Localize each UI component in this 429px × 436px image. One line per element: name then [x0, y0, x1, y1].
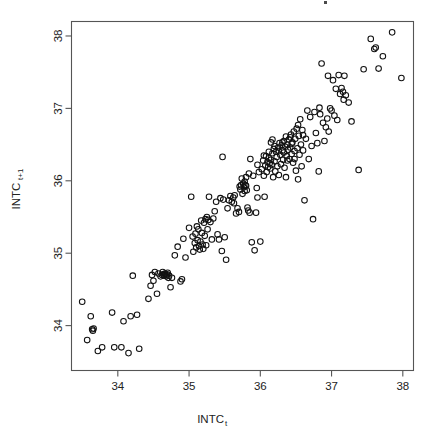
data-point: [220, 154, 226, 160]
data-point: [356, 167, 362, 173]
data-point: [324, 116, 330, 122]
data-point: [297, 116, 303, 122]
data-point: [130, 273, 136, 279]
data-point: [349, 119, 355, 125]
data-point: [146, 296, 152, 302]
data-point: [186, 225, 192, 231]
data-point: [322, 138, 328, 144]
data-point: [342, 73, 348, 79]
y-axis-ticks: [66, 36, 72, 326]
data-point: [313, 130, 319, 136]
data-point: [88, 313, 94, 319]
x-tick-label: 36: [254, 380, 267, 392]
data-point: [333, 86, 339, 92]
scatter-plot-figure: 3435363738 3435363738 INTC t INTC t+1: [0, 0, 429, 436]
data-point: [276, 172, 282, 178]
data-point: [389, 30, 395, 36]
y-axis-title-base: INTC: [10, 183, 22, 210]
data-point: [339, 85, 345, 91]
data-point: [235, 206, 241, 212]
data-point: [283, 174, 289, 180]
data-point: [302, 198, 308, 204]
data-point: [126, 350, 132, 356]
data-point: [293, 168, 299, 174]
data-point: [253, 210, 259, 216]
data-point: [372, 46, 378, 52]
data-point: [119, 345, 125, 351]
y-tick-label: 35: [52, 247, 64, 260]
data-point: [317, 105, 323, 111]
data-point: [258, 239, 264, 245]
data-point: [223, 257, 229, 263]
data-point: [151, 278, 157, 284]
data-point: [305, 108, 311, 114]
plot-canvas: 3435363738 3435363738 INTC t INTC t+1: [0, 0, 429, 436]
y-axis-title: INTC t+1: [10, 168, 25, 209]
data-point: [168, 284, 174, 290]
data-point: [175, 244, 181, 250]
data-point: [255, 162, 261, 168]
y-tick-label: 34: [52, 319, 64, 332]
y-axis-tick-labels: 3435363738: [52, 30, 64, 332]
data-point: [295, 122, 301, 128]
data-point: [270, 174, 276, 180]
data-point: [254, 185, 260, 191]
data-point: [111, 345, 117, 351]
data-point: [361, 66, 367, 72]
x-axis-title-base: INTC: [197, 413, 224, 425]
data-point: [326, 129, 332, 135]
data-point: [99, 345, 105, 351]
data-point: [136, 346, 142, 352]
data-point: [325, 73, 331, 79]
data-point: [300, 148, 306, 154]
data-point: [315, 140, 321, 146]
data-point: [373, 45, 379, 51]
data-point: [330, 77, 336, 83]
data-point: [84, 337, 90, 343]
y-axis-title-subscript: t+1: [16, 168, 25, 180]
x-tick-label: 34: [111, 380, 124, 392]
data-point: [299, 164, 305, 170]
image-artifact-speck: [324, 1, 327, 4]
x-axis-title-subscript: t: [225, 419, 228, 428]
data-point: [154, 291, 160, 297]
data-point: [172, 253, 178, 259]
data-point: [79, 299, 85, 305]
data-point: [222, 234, 228, 240]
data-point: [134, 312, 140, 318]
x-axis-title: INTC t: [197, 413, 228, 428]
x-axis-tick-labels: 3435363738: [111, 380, 409, 392]
data-point: [249, 240, 255, 246]
data-point: [368, 36, 374, 42]
data-point: [206, 194, 212, 200]
data-point: [319, 61, 325, 67]
data-point: [316, 169, 322, 175]
data-point: [121, 318, 127, 324]
data-point: [334, 117, 340, 123]
data-point: [399, 75, 405, 81]
data-point: [298, 142, 304, 148]
data-point: [295, 177, 301, 183]
data-point: [317, 111, 323, 117]
data-point: [219, 248, 225, 254]
x-tick-label: 37: [325, 380, 338, 392]
data-point: [181, 236, 187, 242]
data-point: [282, 165, 288, 171]
data-point: [380, 53, 386, 59]
data-point: [128, 313, 134, 319]
data-point: [266, 149, 272, 155]
y-tick-label: 38: [52, 30, 64, 43]
data-point: [290, 160, 296, 166]
y-tick-label: 36: [52, 174, 64, 187]
data-point: [309, 143, 315, 149]
data-point: [209, 237, 215, 243]
data-point: [376, 66, 382, 72]
data-point: [109, 310, 115, 316]
data-point: [307, 114, 313, 120]
x-tick-label: 38: [396, 380, 409, 392]
data-point: [255, 195, 261, 201]
data-point: [262, 194, 268, 200]
data-point: [225, 206, 231, 212]
data-point: [312, 109, 318, 115]
data-point: [310, 216, 316, 222]
